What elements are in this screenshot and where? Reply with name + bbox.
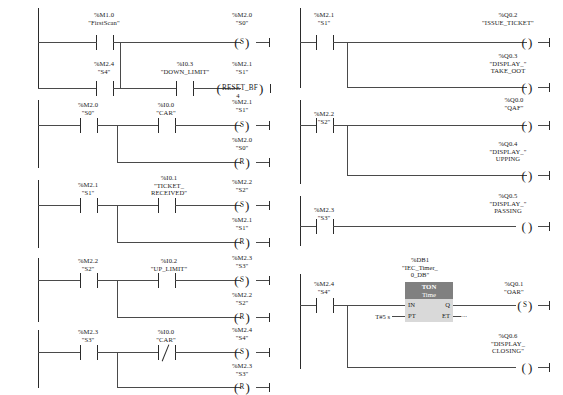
coil-terminator [269, 238, 270, 247]
coil-qaf[interactable]: ( ) [516, 118, 538, 133]
coil-label: %M2.1 "S1" [218, 60, 266, 75]
power-rail [38, 180, 39, 248]
coil-label: %Q0.6 "DISPLAY_ CLOSING" [476, 332, 540, 355]
contact-label: %I0.2 "UP_LIMIT" [137, 257, 201, 272]
coil-issue-ticket[interactable]: ( ) [516, 35, 538, 50]
timer-pt-value[interactable]: T#5 s [358, 313, 390, 321]
contact-s4[interactable] [316, 298, 334, 313]
contact-s2[interactable] [80, 273, 98, 288]
timer-db-address: %DB1 [383, 256, 457, 264]
coil-paren-left: ( [521, 81, 526, 94]
contact-s0[interactable] [80, 118, 98, 133]
rung-wire [97, 205, 159, 206]
coil-label: %M2.4 "S4" [218, 326, 266, 341]
rung-5[interactable]: %M2.3 "S3" %I0.0 "CAR" %M2.4 [0, 326, 290, 389]
contact-s1[interactable] [80, 198, 98, 213]
rung-8[interactable]: %M2.3 "S3" %Q0.5 "DISPLAY_" PASSING ( ) [290, 192, 563, 254]
rung-3[interactable]: %M2.1 "S1" %I0.1 "TICKET_ RECEIVED" [0, 176, 290, 254]
contact-s4[interactable] [96, 81, 114, 96]
coil-set-s2[interactable]: ( S ) [228, 198, 256, 213]
contact-s1[interactable] [316, 35, 334, 50]
timer-pin-et[interactable]: ET [442, 312, 450, 320]
coil-paren-right: ) [259, 82, 264, 95]
power-rail [38, 8, 39, 88]
rung-6[interactable]: %M2.1 "S1" %Q0.2 "ISSUE_TICKET" ( ) [290, 0, 563, 95]
rung-7[interactable]: %M2.2 "S2" %Q0.0 "QAF" ( ) [290, 96, 563, 192]
contact-bar-left [316, 35, 317, 50]
coil-display-passing[interactable]: ( ) [516, 219, 538, 234]
rung-wire [117, 317, 241, 318]
coil-reset-s3[interactable]: ( R ) [228, 380, 256, 395]
coil-terminator [269, 38, 270, 47]
contact-label: %I0.0 "CAR" [140, 101, 192, 116]
contact-slash [162, 344, 170, 361]
coil-label: %M2.0 "S0" [218, 11, 266, 26]
coil-terminator [270, 84, 271, 93]
contact-down-limit[interactable] [176, 81, 194, 96]
contact-label: %M2.0 "S0" [62, 101, 114, 116]
coil-set-s4[interactable]: ( S ) [228, 345, 256, 360]
rung-wire [38, 280, 80, 281]
rung-2[interactable]: %M2.0 "S0" %I0.0 "CAR" %M2.1 " [0, 96, 290, 176]
rung-1[interactable]: %M1.0 "FirstScan" %M2.4 "S4" %I0.3 "DOWN… [0, 0, 290, 95]
rung-wire [256, 352, 270, 353]
contact-s3[interactable] [316, 219, 334, 234]
timer-db-name-2: 0_DB" [383, 271, 457, 279]
branch-connector [117, 125, 118, 163]
coil-label: %Q0.1 "OAR" [488, 280, 540, 295]
rung-wire [256, 317, 270, 318]
contact-s3[interactable] [80, 345, 98, 360]
timer-pin-pt[interactable]: PT [408, 312, 416, 320]
coil-reset-s2[interactable]: ( R ) [228, 310, 256, 325]
rung-wire [333, 125, 527, 126]
coil-label: %M2.1 "S1" [218, 216, 266, 231]
contact-bar-left [158, 345, 159, 360]
coil-terminator [549, 121, 550, 130]
coil-terminator [269, 158, 270, 167]
coil-label: %Q0.4 "DISPLAY_" UPPING [476, 140, 540, 163]
coil-type: R [239, 159, 246, 166]
contact-s2[interactable] [316, 118, 334, 133]
contact-bar-left [316, 219, 317, 234]
coil-reset-s0[interactable]: ( R ) [228, 155, 256, 170]
contact-car[interactable] [158, 118, 176, 133]
coil-paren-right: ) [246, 381, 251, 394]
timer-db-label: %DB1 "IEC_Timer_ 0_DB" [383, 256, 457, 279]
coil-set-s0[interactable]: ( S ) [228, 35, 256, 50]
timer-db-name-1: "IEC_Timer_ [383, 264, 457, 272]
contact-car-normally-closed[interactable] [158, 345, 176, 360]
contact-label: %M2.1 "S1" [298, 11, 350, 26]
rung-wire [38, 42, 80, 43]
coil-paren-right: ) [246, 156, 251, 169]
contact-label: %M1.0 "FirstScan" [78, 11, 130, 26]
coil-label: %Q0.3 "DISPLAY_" TAKE_OOT [476, 52, 540, 75]
rung-wire [97, 280, 159, 281]
coil-display-upping[interactable]: ( ) [516, 168, 538, 183]
coil-set-s1[interactable]: ( S ) [228, 118, 256, 133]
timer-pin-in[interactable]: IN [408, 301, 415, 309]
coil-display-closing[interactable]: ( ) [516, 360, 538, 375]
contact-bar-left [80, 118, 81, 133]
contact-firstscan[interactable] [96, 35, 114, 50]
rung-wire [256, 387, 270, 388]
contact-ticket-received[interactable] [158, 198, 176, 213]
contact-label: %M2.4 "S4" [78, 60, 130, 75]
contact-up-limit[interactable] [158, 273, 176, 288]
coil-reset-s1[interactable]: ( R ) [228, 235, 256, 250]
timer-pin-q[interactable]: Q [445, 301, 450, 309]
coil-set-s3[interactable]: ( S ) [228, 273, 256, 288]
coil-set-oar[interactable]: ( S ) [512, 298, 538, 313]
coil-paren-right: ) [528, 220, 533, 233]
coil-display-take-out[interactable]: ( ) [516, 80, 538, 95]
rung-wire [80, 42, 97, 43]
rung-9[interactable]: %M2.4 "S4" %DB1 "IEC_Timer_ 0_DB" TON Ti… [290, 254, 563, 389]
rung-wire [113, 42, 241, 43]
coil-terminator [269, 348, 270, 357]
coil-paren-left: ( [521, 169, 526, 182]
coil-paren-right: ) [245, 274, 250, 287]
ladder-column-left: %M1.0 "FirstScan" %M2.4 "S4" %I0.3 "DOWN… [0, 0, 290, 389]
contact-bar-left [96, 81, 97, 96]
ton-timer-block[interactable]: TON Time IN Q PT ET [405, 282, 453, 322]
coil-paren-right: ) [245, 199, 250, 212]
rung-4[interactable]: %M2.2 "S2" %I0.2 "UP_LIMIT" %M2.3 [0, 254, 290, 328]
